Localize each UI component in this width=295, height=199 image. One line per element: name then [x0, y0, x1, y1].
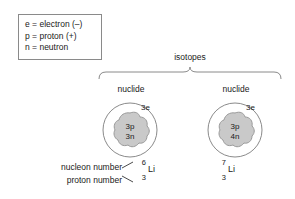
- atom-diagram-lithium-6: 3p 3n 3e: [102, 101, 159, 158]
- atomic-number: 3: [132, 173, 146, 182]
- nucleus-neutron-count: 4n: [231, 132, 240, 141]
- mass-number: 7: [212, 158, 226, 167]
- nuclide-heading-left: nuclide: [91, 84, 171, 94]
- nucleon-number-callout: nucleon number: [30, 162, 122, 172]
- nucleus-proton-count: 3p: [126, 122, 135, 131]
- atom-diagram-lithium-7: 3p 4n 3e: [207, 101, 264, 158]
- legend-line-neutron: n = neutron: [25, 42, 95, 54]
- atomic-number: 3: [212, 173, 226, 182]
- element-symbol: Li: [148, 164, 155, 174]
- legend-line-proton: p = proton (+): [25, 31, 95, 43]
- electron-count-label: 3e: [246, 103, 255, 112]
- isotopes-brace: [98, 66, 282, 80]
- isotopes-group-label: isotopes: [155, 52, 225, 62]
- legend-line-electron: e = electron (–): [25, 19, 95, 31]
- isotope-formula-lithium-6: 6 3 Li: [132, 158, 182, 190]
- nuclide-heading-right: nuclide: [196, 84, 276, 94]
- particle-key-box: e = electron (–) p = proton (+) n = neut…: [18, 14, 102, 60]
- electron-count-label: 3e: [141, 103, 150, 112]
- diagram-canvas: e = electron (–) p = proton (+) n = neut…: [0, 0, 295, 199]
- element-symbol: Li: [228, 164, 235, 174]
- nucleus-proton-count: 3p: [231, 122, 240, 131]
- nucleus-neutron-count: 3n: [126, 132, 135, 141]
- mass-number: 6: [132, 158, 146, 167]
- proton-number-callout: proton number: [30, 175, 122, 185]
- isotope-formula-lithium-7: 7 3 Li: [212, 158, 262, 190]
